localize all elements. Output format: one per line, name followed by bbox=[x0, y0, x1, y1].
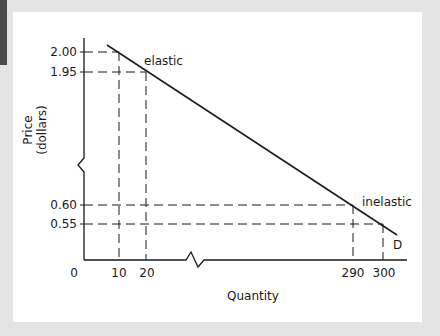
demand-curve bbox=[107, 45, 397, 235]
x-tick-label-20: 20 bbox=[139, 266, 154, 280]
y-tick-label-2.00: 2.00 bbox=[50, 45, 77, 59]
demand-label: D bbox=[393, 238, 402, 252]
y-axis-title-line2: (dollars) bbox=[35, 105, 49, 155]
elastic-label: elastic bbox=[144, 54, 183, 68]
x-tick-label-10: 10 bbox=[111, 266, 126, 280]
y-tick-label-0.60: 0.60 bbox=[50, 198, 77, 212]
y-axis-title-line1: Price bbox=[21, 115, 35, 144]
x-tick-label-300: 300 bbox=[373, 266, 396, 280]
y-tick-label-1.95: 1.95 bbox=[50, 65, 77, 79]
y-axis-title: Price (dollars) bbox=[21, 105, 49, 155]
x-axis bbox=[84, 252, 407, 267]
inelastic-label: inelastic bbox=[362, 195, 412, 209]
origin-label: 0 bbox=[70, 266, 78, 280]
y-tick-label-0.55: 0.55 bbox=[50, 217, 77, 231]
x-axis-title: Quantity bbox=[227, 289, 279, 303]
demand-chart: 2.00 1.95 0.60 0.55 0 10 20 290 300 elas… bbox=[0, 0, 440, 336]
y-axis bbox=[78, 38, 84, 260]
x-tick-label-290: 290 bbox=[342, 266, 365, 280]
reference-lines bbox=[84, 52, 383, 260]
